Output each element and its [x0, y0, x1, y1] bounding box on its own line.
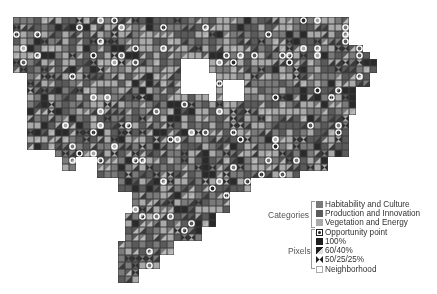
- categories-bracket: [311, 201, 315, 228]
- legend-label: Neighborhood: [325, 265, 376, 274]
- opportunity-point-icon: [316, 229, 323, 236]
- neighborhood-swatch-icon: [316, 266, 323, 273]
- full-pixel-icon: [316, 238, 323, 245]
- legend-item-60-40: 60/40%: [316, 246, 353, 255]
- legend-label: Habitability and Culture: [325, 200, 410, 209]
- legend-item-opportunity: Opportunity point: [316, 228, 387, 237]
- split-60-40-icon: [316, 247, 323, 254]
- legend-categories-label: Categories: [268, 210, 309, 220]
- split-50-25-25-icon: [316, 256, 323, 263]
- legend-label: Production and Innovation: [325, 209, 420, 218]
- swatch-production-icon: [316, 210, 323, 217]
- legend-label: 60/40%: [325, 246, 353, 255]
- legend-pixels-label: Pixels: [288, 246, 311, 256]
- legend-label: Vegetation and Energy: [325, 218, 408, 227]
- legend-item-full: 100%: [316, 237, 346, 246]
- legend-label: Opportunity point: [325, 228, 387, 237]
- legend-item-production: Production and Innovation: [316, 209, 420, 218]
- pixels-bracket: [311, 229, 315, 269]
- legend-item-vegetation: Vegetation and Energy: [316, 218, 408, 227]
- legend-label: 50/25/25%: [325, 255, 364, 264]
- swatch-habitability-icon: [316, 201, 323, 208]
- legend-item-habitability: Habitability and Culture: [316, 200, 410, 209]
- legend-item-neighborhood: Neighborhood: [316, 265, 376, 274]
- swatch-vegetation-icon: [316, 219, 323, 226]
- legend-label: 100%: [325, 237, 346, 246]
- legend-item-50-25-25: 50/25/25%: [316, 255, 364, 264]
- legend: Categories Pixels Habitability and Cultu…: [266, 200, 437, 280]
